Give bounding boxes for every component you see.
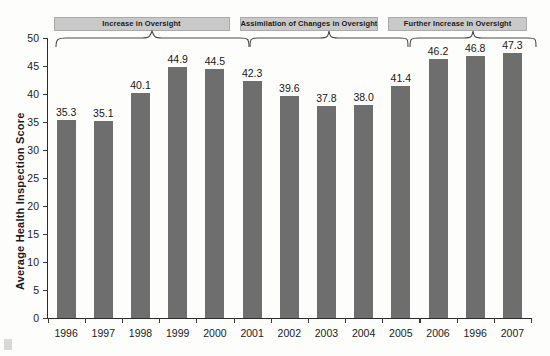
x-tick	[48, 318, 49, 323]
chart-canvas: Increase in Oversight Assimilation of Ch…	[0, 0, 550, 356]
x-tick	[345, 318, 346, 323]
x-tick	[196, 318, 197, 323]
y-tick	[43, 234, 48, 235]
bar	[57, 120, 76, 318]
y-tick	[43, 122, 48, 123]
x-tick-label: 1999	[159, 328, 197, 339]
y-tick-label: 45	[15, 61, 39, 71]
bar-value-label: 46.8	[458, 43, 492, 54]
y-tick-label: 30	[15, 145, 39, 155]
y-tick-label: 40	[15, 89, 39, 99]
bar-value-label: 35.1	[86, 108, 120, 119]
y-tick	[43, 66, 48, 67]
x-tick	[271, 318, 272, 323]
bar-value-label: 42.3	[235, 68, 269, 79]
bar	[503, 53, 522, 318]
y-tick	[43, 206, 48, 207]
y-tick-label: 35	[15, 117, 39, 127]
annotation-brace-group-1	[54, 30, 250, 48]
bar	[131, 93, 150, 318]
bar	[429, 59, 448, 318]
bar	[205, 69, 224, 318]
x-tick	[122, 318, 123, 323]
x-tick	[382, 318, 383, 323]
y-tick	[43, 178, 48, 179]
x-tick-label: 1998	[122, 328, 160, 339]
bar-value-label: 39.6	[272, 83, 306, 94]
y-tick-label: 15	[15, 229, 39, 239]
bar-value-label: 40.1	[124, 80, 158, 91]
x-tick	[159, 318, 160, 323]
x-tick	[494, 318, 495, 323]
y-tick-label: 50	[15, 33, 39, 43]
scan-artifact	[4, 339, 12, 350]
x-tick-label: 2001	[233, 328, 271, 339]
y-tick	[43, 262, 48, 263]
x-tick-label: 1996	[47, 328, 85, 339]
y-tick-label: 10	[15, 257, 39, 267]
annotation-label-increase-in-oversight: Increase in Oversight	[54, 17, 230, 31]
y-tick	[43, 38, 48, 39]
annotation-label-further-increase-in-oversight: Further Increase in Oversight	[388, 17, 527, 31]
bar-value-label: 47.3	[495, 40, 529, 51]
bar	[243, 81, 262, 318]
bar	[317, 106, 336, 318]
bar-value-label: 37.8	[309, 93, 343, 104]
bar	[354, 105, 373, 318]
bar-value-label: 46.2	[421, 46, 455, 57]
y-tick	[43, 150, 48, 151]
bar-value-label: 44.9	[161, 54, 195, 65]
x-tick	[85, 318, 86, 323]
bar	[94, 121, 113, 318]
x-tick-label: 2003	[307, 328, 345, 339]
annotation-label-assimilation-of-changes-in-oversight: Assimilation of Changes in Oversight	[240, 17, 379, 31]
x-tick	[234, 318, 235, 323]
bar-value-label: 38.0	[347, 92, 381, 103]
bar	[391, 86, 410, 318]
x-tick-label: 2000	[196, 328, 234, 339]
x-tick-label: 1997	[84, 328, 122, 339]
y-tick-label: 20	[15, 201, 39, 211]
bar	[168, 67, 187, 318]
y-tick-label: 0	[15, 313, 39, 323]
annotation-brace-group-2	[248, 30, 410, 48]
bar-value-label: 44.5	[198, 56, 232, 67]
x-tick	[531, 318, 532, 323]
bar	[466, 56, 485, 318]
x-tick	[457, 318, 458, 323]
x-tick-label: 2002	[270, 328, 308, 339]
y-tick	[43, 290, 48, 291]
x-tick-label: 2006	[419, 328, 457, 339]
x-tick	[308, 318, 309, 323]
y-tick	[43, 94, 48, 95]
x-axis-line	[47, 318, 531, 319]
x-tick-label: 2005	[382, 328, 420, 339]
bar-value-label: 41.4	[384, 73, 418, 84]
x-tick-label: 1996	[456, 328, 494, 339]
x-tick	[419, 318, 420, 323]
y-tick-label: 5	[15, 285, 39, 295]
x-tick-label: 2007	[493, 328, 531, 339]
x-tick-label: 2004	[345, 328, 383, 339]
bar	[280, 96, 299, 318]
bar-value-label: 35.3	[49, 107, 83, 118]
y-tick-label: 25	[15, 173, 39, 183]
